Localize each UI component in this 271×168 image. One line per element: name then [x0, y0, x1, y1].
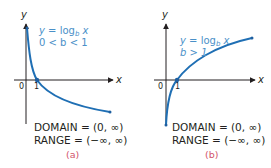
panel-caption-a: (a): [66, 149, 79, 160]
panel-b: y x 0 1 y = logb x b > 1 DOMAIN = (0, ∞)…: [154, 9, 265, 160]
domain-text-b: DOMAIN = (0, ∞): [172, 121, 261, 133]
range-text-b: RANGE = (−∞, ∞): [172, 134, 265, 146]
point-1-0-a: [35, 78, 39, 82]
curve-end-a: [109, 111, 112, 114]
y-axis-label-a: y: [20, 9, 28, 20]
point-1-0-b: [175, 78, 179, 82]
range-text-a: RANGE = (−∞, ∞): [34, 134, 127, 146]
panel-a: y x 0 1 y = logb x 0 < b < 1 DOMAIN = (0…: [14, 9, 127, 160]
curve-end-b: [251, 37, 254, 40]
y-axis-label-b: y: [161, 9, 169, 20]
condition-b: b > 1: [180, 47, 207, 58]
origin-tick-a: 0: [19, 82, 24, 91]
panel-caption-b: (b): [205, 149, 218, 160]
x-axis-label-a: x: [115, 74, 122, 85]
one-tick-b: 1: [175, 82, 180, 91]
log-graphs-figure: y x 0 1 y = logb x 0 < b < 1 DOMAIN = (0…: [0, 0, 271, 168]
curve-start-b: [165, 124, 168, 127]
condition-a: 0 < b < 1: [39, 37, 88, 48]
origin-tick-b: 0: [158, 82, 163, 91]
x-axis-label-b: x: [257, 74, 264, 85]
domain-text-a: DOMAIN = (0, ∞): [34, 121, 123, 133]
curve-start-a: [26, 27, 29, 30]
